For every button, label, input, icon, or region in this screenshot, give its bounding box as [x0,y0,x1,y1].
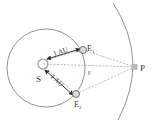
earth2-label: E2 [74,100,82,110]
angle-label: γ [88,69,91,75]
star-p [132,65,137,70]
outer-arc [113,3,133,120]
earth-position-2 [73,91,80,98]
sun-label: S [36,74,41,84]
earth1-label: E1 [87,44,95,54]
star-label: P [140,63,145,73]
earth-position-1 [80,47,87,54]
distance-label-1: 1 AU [52,46,69,58]
parallax-diagram: S E1 E2 P γ 1 AU 1 AU [0,0,152,123]
